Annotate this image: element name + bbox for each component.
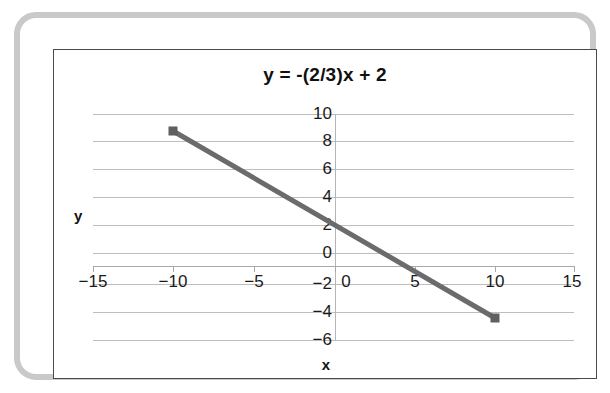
y-axis-line (335, 114, 336, 340)
x-tick-label-neg5: −5 (224, 272, 284, 292)
y-tick-label-neg4: −4 (298, 303, 332, 320)
y-tick-label-6: 6 (298, 160, 332, 177)
x-tick-label-neg10: −10 (143, 272, 203, 292)
y-tick-label-0: 0 (298, 244, 332, 261)
gridline-y-10 (93, 114, 574, 115)
gridline-y-2 (93, 225, 574, 226)
gridline-y-8 (93, 141, 574, 142)
y-tick-label-neg6: −6 (298, 331, 332, 348)
x-tick-label-10: 10 (465, 272, 525, 292)
gridline-y-neg6 (93, 340, 574, 341)
plot-area: 10 8 6 4 2 0 −2 (54, 50, 597, 379)
gridline-y-0 (93, 253, 574, 254)
y-axis-title: y (74, 207, 82, 224)
y-tick-label-2: 2 (298, 216, 332, 233)
x-tick-label-neg15: −15 (63, 272, 123, 292)
outer-rounded-frame: y = -(2/3)x + 2 (14, 12, 596, 380)
x-axis-title: x (54, 356, 597, 373)
series-marker-end (491, 314, 500, 323)
series-marker-start (169, 127, 178, 136)
screenshot-root: y = -(2/3)x + 2 (0, 0, 610, 393)
x-axis-line (93, 266, 574, 267)
gridline-y-neg4 (93, 312, 574, 313)
chart-container: y = -(2/3)x + 2 (53, 49, 597, 379)
y-tick-label-8: 8 (298, 132, 332, 149)
y-tick-label-4: 4 (298, 188, 332, 205)
x-tick-label-15: 15 (542, 272, 597, 292)
gridline-y-6 (93, 169, 574, 170)
gridline-y-4 (93, 197, 574, 198)
x-tick-label-0: 0 (316, 272, 376, 292)
x-tick-label-5: 5 (385, 272, 445, 292)
y-tick-label-10: 10 (298, 105, 332, 122)
